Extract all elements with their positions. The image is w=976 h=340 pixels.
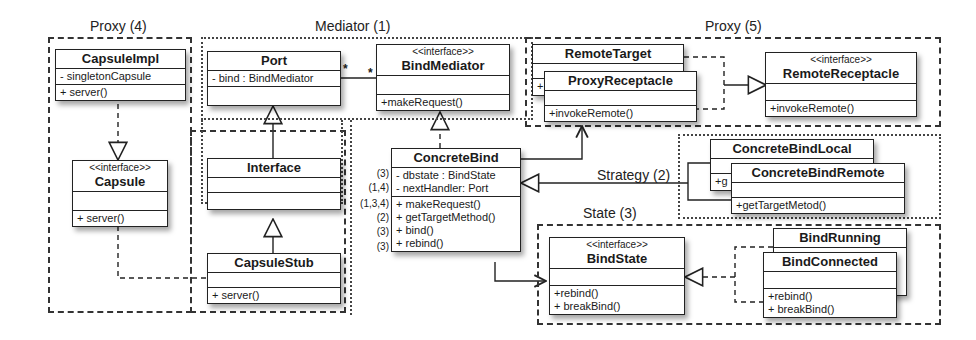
stereotype: <<interface>> — [76, 162, 164, 174]
stereotype: <<interface>> — [553, 239, 681, 251]
class-name: ConcreteBindRemote — [735, 165, 901, 180]
class-name: Capsule — [76, 174, 164, 189]
pattern-tag: (1,4) — [353, 181, 389, 194]
pattern-tag: (1,3,4) — [353, 197, 389, 210]
method: +invokeRemote() — [770, 102, 912, 115]
attribute: - dbstate : BindState — [396, 169, 516, 182]
attribute: - nextHandler: Port — [396, 182, 516, 195]
method: + breakBind() — [554, 300, 680, 313]
pattern-tag: (3) — [353, 167, 389, 180]
method: + server() — [77, 212, 163, 225]
class-proxyreceptacle[interactable]: ProxyReceptacle +invokeRemote() — [544, 71, 697, 122]
method: +rebind() — [768, 290, 892, 303]
class-bindconnected[interactable]: BindConnected +rebind() + breakBind() — [763, 252, 897, 318]
interface-bindmediator[interactable]: <<interface>> BindMediator +makeRequest(… — [376, 44, 510, 111]
class-name: BindRunning — [777, 230, 903, 245]
multiplicity-mediator: * — [368, 66, 373, 80]
method: + makeRequest() — [396, 198, 516, 211]
class-name: BindMediator — [380, 58, 506, 73]
class-capsulestub[interactable]: CapsuleStub + server() — [207, 253, 341, 304]
class-concretebind[interactable]: ConcreteBind - dbstate : BindState - nex… — [391, 148, 521, 252]
stereotype: <<interface>> — [380, 46, 506, 58]
class-interface[interactable]: Interface — [207, 158, 341, 210]
method: + server() — [212, 289, 336, 302]
class-name: CapsuleStub — [211, 255, 337, 270]
method: + rebind() — [396, 237, 516, 250]
frame-label-proxy-5: Proxy (5) — [705, 18, 762, 34]
class-name: Interface — [211, 160, 337, 175]
class-name: RemoteReceptacle — [769, 66, 913, 81]
pattern-tag: (3) — [353, 240, 389, 253]
method: + bind() — [396, 224, 516, 237]
pattern-tag: (2) — [353, 211, 389, 224]
frame-label-proxy-4: Proxy (4) — [90, 18, 147, 34]
stereotype: <<interface>> — [769, 54, 913, 66]
class-port[interactable]: Port - bind : BindMediator — [207, 51, 341, 106]
class-name: Port — [211, 53, 337, 68]
attribute: - bind : BindMediator — [212, 72, 336, 85]
method: + server() — [60, 86, 181, 99]
method: +invokeRemote() — [549, 107, 692, 120]
interface-remotereceptacle[interactable]: <<interface>> RemoteReceptacle +invokeRe… — [765, 52, 917, 117]
class-name: CapsuleImpl — [59, 51, 182, 66]
class-name: BindState — [553, 251, 681, 266]
method: +makeRequest() — [381, 96, 505, 109]
method: + breakBind() — [768, 303, 892, 316]
class-name: ConcreteBindLocal — [714, 141, 870, 156]
class-name: BindConnected — [767, 254, 893, 269]
method: +getTargetMetod() — [736, 199, 900, 212]
method: + getTargetMethod() — [396, 211, 516, 224]
multiplicity-port: * — [343, 62, 348, 76]
class-capsuleimpl[interactable]: CapsuleImpl - singletonCapsule + server(… — [55, 49, 186, 101]
class-name: ProxyReceptacle — [548, 73, 693, 88]
frame-label-strategy-2: Strategy (2) — [597, 167, 670, 183]
uml-class-diagram: Proxy (4) Mediator (1) Proxy (5) Strateg… — [0, 0, 976, 340]
class-name: ConcreteBind — [395, 150, 517, 165]
interface-capsule[interactable]: <<interface>> Capsule + server() — [72, 160, 168, 227]
pattern-tag: (3) — [353, 225, 389, 238]
frame-label-mediator-1: Mediator (1) — [315, 18, 390, 34]
method: +rebind() — [554, 287, 680, 300]
attribute: - singletonCapsule — [60, 70, 181, 83]
class-name: RemoteTarget — [536, 46, 680, 61]
interface-bindstate[interactable]: <<interface>> BindState +rebind() + brea… — [549, 237, 685, 315]
frame-label-state-3: State (3) — [583, 205, 637, 221]
class-concretebindremote[interactable]: ConcreteBindRemote +getTargetMetod() — [731, 163, 905, 214]
